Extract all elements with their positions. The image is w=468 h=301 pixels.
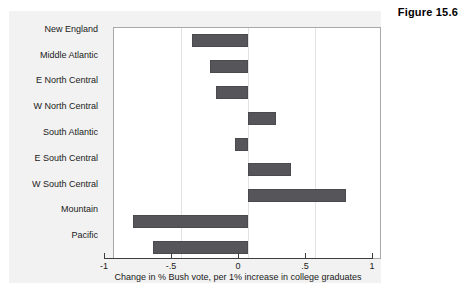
plot-inner — [114, 28, 380, 258]
x-axis-tick — [305, 253, 306, 259]
x-axis-tick — [238, 253, 239, 259]
x-axis-tick — [171, 253, 172, 259]
category-label: South Atlantic — [43, 127, 98, 137]
figure-container: Figure 15.6 Change in % Bush vote, per 1… — [0, 0, 468, 301]
category-label: Pacific — [71, 230, 98, 240]
bar — [248, 163, 291, 176]
category-label: New England — [44, 24, 98, 34]
bar — [248, 112, 276, 125]
bar — [248, 189, 346, 202]
x-axis-tick-label: 1 — [369, 261, 374, 271]
x-axis-tick — [372, 253, 373, 259]
bar — [216, 86, 248, 99]
bar — [133, 215, 248, 228]
category-label: W South Central — [32, 179, 98, 189]
bar — [235, 138, 248, 151]
gridline-x — [248, 28, 249, 258]
x-axis-tick-label: -.5 — [166, 261, 177, 271]
gridline-x — [315, 28, 316, 258]
figure-number-label: Figure 15.6 — [398, 6, 458, 18]
x-axis-tick-label: 0 — [235, 261, 240, 271]
category-label: Mountain — [61, 204, 98, 214]
bar — [192, 34, 248, 47]
category-label: E North Central — [36, 75, 98, 85]
category-label: W North Central — [33, 101, 98, 111]
x-axis-tick — [104, 253, 105, 259]
plot-area — [113, 27, 381, 259]
category-label: Middle Atlantic — [40, 50, 98, 60]
bar — [210, 60, 248, 73]
x-axis-tick-label: -1 — [100, 261, 108, 271]
x-axis-tick-label: .5 — [301, 261, 309, 271]
category-label: E South Central — [34, 153, 98, 163]
x-axis-title: Change in % Bush vote, per 1% increase i… — [104, 272, 372, 282]
bar — [153, 241, 248, 254]
